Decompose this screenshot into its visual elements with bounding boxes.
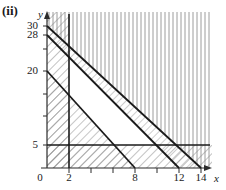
y-tick-label-28: 28 bbox=[16, 28, 38, 40]
x-tick-label-12: 12 bbox=[171, 171, 187, 183]
y-tick-label-20: 20 bbox=[16, 64, 38, 76]
x-tick-label-0: 0 bbox=[32, 171, 48, 183]
y-axis-label: y bbox=[38, 8, 43, 20]
x-tick-label-2: 2 bbox=[61, 171, 77, 183]
y-tick-label-5: 5 bbox=[16, 138, 38, 150]
x-tick-label-8: 8 bbox=[127, 171, 143, 183]
linear-programming-figure: (ii) bbox=[0, 0, 226, 190]
x-tick-label-14: 14 bbox=[193, 171, 209, 183]
x-axis-label: x bbox=[214, 172, 219, 184]
